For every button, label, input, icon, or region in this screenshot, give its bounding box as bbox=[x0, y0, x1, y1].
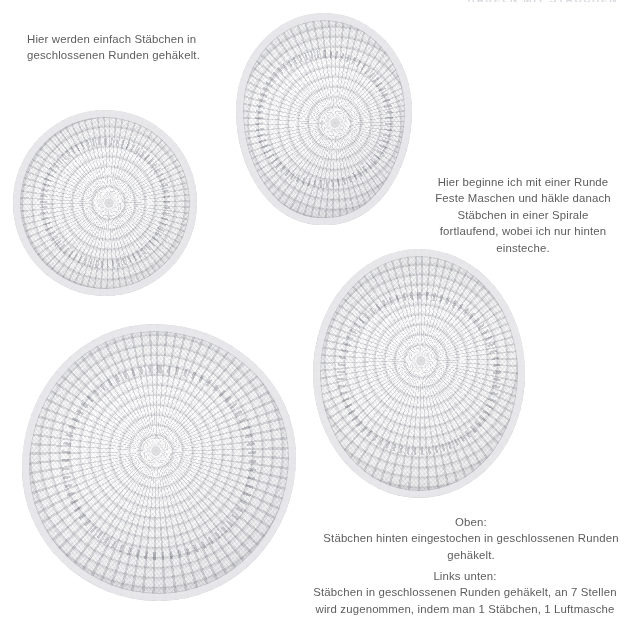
crochet-disc-top bbox=[236, 13, 412, 225]
disc-center-hole bbox=[330, 119, 339, 128]
caption-spiral-method: Hier beginne ich mit einer Runde Feste M… bbox=[420, 174, 626, 256]
crochet-disc-bottom-left bbox=[22, 324, 296, 601]
caption-links-unten: Links unten: Stäbchen in geschlossenen R… bbox=[300, 568, 630, 617]
caption-intro: Hier werden einfach Stäbchen in geschlos… bbox=[27, 31, 257, 64]
disc-center-hole bbox=[104, 199, 113, 208]
disc-center-hole bbox=[152, 447, 161, 456]
crochet-disc-left bbox=[13, 110, 197, 296]
caption-oben: Oben: Stäbchen hinten eingestochen in ge… bbox=[312, 514, 630, 563]
crochet-disc-right bbox=[313, 249, 525, 498]
disc-outer-rim bbox=[236, 13, 412, 225]
disc-outer-rim bbox=[22, 324, 296, 601]
running-header: HÄKELN MIT STÄBCHEN bbox=[432, 0, 618, 2]
book-page: HÄKELN MIT STÄBCHEN Hie bbox=[0, 0, 630, 618]
disc-outer-rim bbox=[313, 249, 525, 498]
disc-center-hole bbox=[417, 357, 426, 366]
